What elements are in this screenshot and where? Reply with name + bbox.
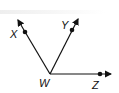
point-x: [23, 30, 28, 35]
angle-diagram: X Y Z W: [0, 0, 119, 93]
ray-wx: [18, 20, 50, 74]
label-w: W: [39, 78, 49, 89]
label-y: Y: [61, 20, 68, 31]
point-z: [98, 72, 103, 77]
rays-figure: [0, 0, 119, 93]
label-x: X: [10, 29, 17, 40]
point-y: [70, 28, 75, 33]
label-z: Z: [92, 80, 99, 91]
